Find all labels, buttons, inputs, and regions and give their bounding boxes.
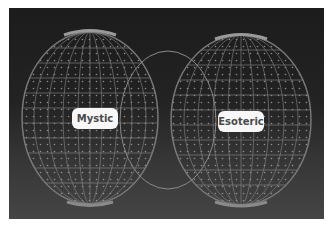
wireframe-spheres [9,8,324,219]
set-label-mystic: Mystic [72,108,118,129]
set-label-esoteric: Esoteric [218,111,264,132]
diagram-panel: Mystic Esoteric [9,8,324,219]
